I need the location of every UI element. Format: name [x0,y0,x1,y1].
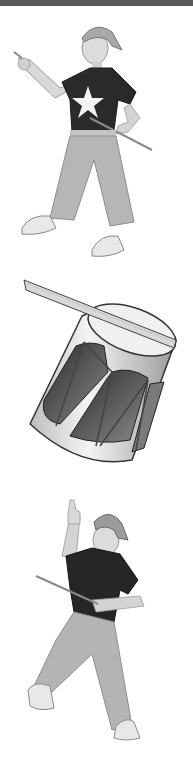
illustration-boy-thumbs-up: Boy in backwards cap giving a thumbs up,… [0,470,193,759]
boy-pointing-drawing [0,6,193,270]
drum-drawing [0,270,193,470]
boy-thumbs-up-drawing [0,470,193,759]
illustration-drum: Snare-style drum with a drumstick across… [0,270,193,470]
illustration-boy-pointing: Boy in backwards cap and star t-shirt po… [0,6,193,270]
